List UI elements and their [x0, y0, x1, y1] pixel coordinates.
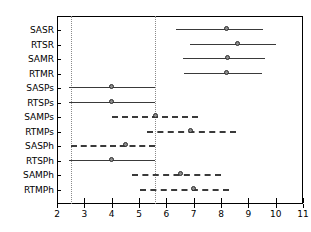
ci-estimate-marker: [235, 41, 240, 46]
ci-row-rtmr: [57, 67, 303, 81]
y-axis-label-rtsps: RTSPs: [0, 98, 54, 108]
x-axis-tick-inner: [276, 198, 277, 203]
y-axis-label-rtsr: RTSR: [0, 40, 54, 50]
y-axis-tick: [57, 103, 61, 104]
x-axis-tick-inner: [166, 198, 167, 203]
x-axis-tick-inner: [221, 198, 222, 203]
ci-interval-line: [176, 29, 263, 30]
y-axis-tick: [57, 146, 61, 147]
y-axis-labels: SASRRTSRSAMRRTMRSASPsRTSPsSAMPsRTMPsSASP…: [0, 16, 54, 204]
ci-row-rtmph: [57, 183, 303, 197]
y-axis-tick: [57, 45, 61, 46]
x-axis-tick: [139, 204, 140, 208]
ci-row-rtsr: [57, 38, 303, 52]
y-axis-label-rtmr: RTMR: [0, 69, 54, 79]
ci-interval-line: [183, 58, 265, 59]
ci-interval-line: [184, 73, 262, 74]
ci-interval-line: [132, 174, 221, 176]
ci-interval-line: [71, 145, 156, 147]
ci-estimate-marker: [109, 99, 114, 104]
y-axis-label-sasph: SASPh: [0, 141, 54, 151]
y-axis-tick: [57, 30, 61, 31]
y-axis-label-rtsph: RTSPh: [0, 156, 54, 166]
x-axis-tick: [84, 204, 85, 208]
ci-row-sasr: [57, 23, 303, 37]
x-axis-tick: [221, 204, 222, 208]
ci-estimate-marker: [191, 186, 196, 191]
y-axis-tick: [57, 190, 61, 191]
x-axis-label-8: 8: [209, 209, 233, 220]
x-axis-tick: [276, 204, 277, 208]
x-axis-tick-inner: [139, 198, 140, 203]
ci-estimate-marker: [224, 70, 229, 75]
x-axis-label-2: 2: [45, 209, 69, 220]
y-axis-tick: [57, 117, 61, 118]
x-axis-tick-inner: [84, 198, 85, 203]
y-axis-tick: [57, 132, 61, 133]
y-axis-tick: [57, 59, 61, 60]
x-axis-label-10: 10: [264, 209, 288, 220]
ci-estimate-marker: [178, 171, 183, 176]
ci-estimate-marker: [224, 26, 229, 31]
y-axis-tick: [57, 88, 61, 89]
ci-row-samph: [57, 168, 303, 182]
x-axis-tick-inner: [248, 198, 249, 203]
ci-estimate-marker: [109, 157, 114, 162]
ci-row-sasph: [57, 139, 303, 153]
x-axis-tick: [112, 204, 113, 208]
ci-interval-line: [140, 189, 229, 191]
x-axis-tick: [166, 204, 167, 208]
y-axis-tick: [57, 161, 61, 162]
ci-row-sasps: [57, 81, 303, 95]
ci-row-rtmps: [57, 125, 303, 139]
x-axis-tick-inner: [194, 198, 195, 203]
ci-estimate-marker: [123, 142, 128, 147]
x-axis-label-4: 4: [100, 209, 124, 220]
x-axis-tick: [194, 204, 195, 208]
y-axis-label-rtmph: RTMPh: [0, 185, 54, 195]
forest-plot-figure: SASRRTSRSAMRRTMRSASPsRTSPsSAMPsRTMPsSASP…: [0, 0, 311, 232]
x-axis-label-3: 3: [72, 209, 96, 220]
ci-estimate-marker: [109, 84, 114, 89]
x-axis-label-5: 5: [127, 209, 151, 220]
ci-row-samr: [57, 52, 303, 66]
y-axis-label-sasps: SASPs: [0, 83, 54, 93]
y-axis-label-samps: SAMPs: [0, 112, 54, 122]
x-axis-label-9: 9: [236, 209, 260, 220]
x-axis-tick-inner: [112, 198, 113, 203]
x-axis-label-6: 6: [154, 209, 178, 220]
y-axis-label-samr: SAMR: [0, 54, 54, 64]
ci-row-rtsph: [57, 154, 303, 168]
x-axis-tick-inner: [57, 198, 58, 203]
ci-row-samps: [57, 110, 303, 124]
x-axis-label-11: 11: [291, 209, 311, 220]
ci-estimate-marker: [225, 55, 230, 60]
y-axis-label-rtmps: RTMPs: [0, 127, 54, 137]
y-axis-label-sasr: SASR: [0, 25, 54, 35]
y-axis-label-samph: SAMPh: [0, 170, 54, 180]
ci-row-rtsps: [57, 96, 303, 110]
ci-interval-line: [190, 44, 276, 45]
x-axis-tick: [303, 204, 304, 208]
x-axis-tick-inner: [303, 198, 304, 203]
plot-area: [57, 16, 303, 204]
x-axis-tick: [57, 204, 58, 208]
y-axis-tick: [57, 74, 61, 75]
x-axis-label-7: 7: [182, 209, 206, 220]
x-axis-tick: [248, 204, 249, 208]
y-axis-tick: [57, 175, 61, 176]
